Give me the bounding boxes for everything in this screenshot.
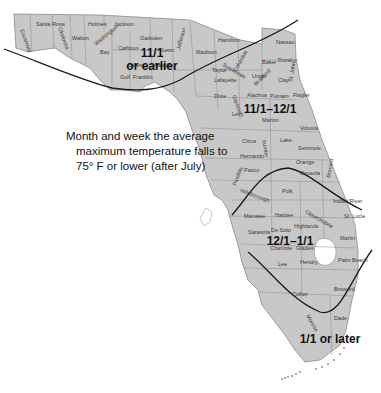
svg-text:Palm Beach: Palm Beach: [338, 257, 368, 263]
svg-text:Marion: Marion: [262, 117, 279, 123]
legend-line-2: maximum temperature falls to: [66, 144, 306, 159]
svg-text:Lafayette: Lafayette: [214, 77, 237, 83]
zone-1-label-line1: 11/1: [141, 46, 164, 60]
svg-text:Dade: Dade: [334, 315, 347, 321]
svg-text:Gulf: Gulf: [120, 74, 131, 80]
svg-text:Collier: Collier: [292, 291, 308, 297]
svg-text:De Soto: De Soto: [271, 227, 291, 233]
svg-text:Putnam: Putnam: [270, 93, 289, 99]
svg-text:Manatee: Manatee: [244, 213, 265, 219]
svg-text:Jackson: Jackson: [114, 21, 134, 27]
florida-map: Escambia Santa Rosa Okaloosa Walton Holm…: [0, 0, 381, 393]
svg-text:Flagler: Flagler: [293, 92, 310, 98]
zone-4-label: 1/1 or later: [300, 332, 361, 346]
svg-text:Dixie: Dixie: [214, 93, 226, 99]
florida-landmass: [14, 14, 358, 362]
svg-text:Alachua: Alachua: [247, 92, 268, 98]
svg-text:Madison: Madison: [196, 49, 217, 55]
svg-text:Gadsden: Gadsden: [140, 35, 162, 41]
svg-text:Levy: Levy: [232, 111, 244, 117]
legend-line-3: 75° F or lower (after July): [66, 159, 306, 174]
svg-text:Broward: Broward: [334, 286, 354, 292]
map-legend: Month and week the average maximum tempe…: [66, 129, 306, 174]
svg-text:Hardee: Hardee: [275, 212, 293, 218]
svg-text:Highlands: Highlands: [294, 223, 319, 229]
svg-text:Martin: Martin: [340, 235, 355, 241]
svg-text:Lee: Lee: [278, 261, 287, 267]
legend-line-1: Month and week the average: [66, 129, 306, 144]
svg-text:Indian River: Indian River: [333, 198, 363, 204]
svg-text:Walton: Walton: [72, 35, 89, 41]
zone-3-label: 12/1–1/1: [267, 234, 314, 248]
tampa-bay: [200, 208, 212, 226]
svg-text:St. Lucie: St. Lucie: [344, 213, 365, 219]
zone-1-label-line2: or earlier: [126, 59, 178, 73]
svg-text:Baker: Baker: [262, 59, 277, 65]
svg-text:Leon: Leon: [162, 47, 174, 53]
zone-2-label: 11/1–12/1: [244, 102, 297, 116]
svg-text:Nassau: Nassau: [276, 39, 295, 45]
svg-text:Hendry: Hendry: [300, 259, 318, 265]
svg-text:Franklin: Franklin: [133, 74, 153, 80]
svg-text:Bay: Bay: [100, 49, 110, 55]
svg-text:Calhoun: Calhoun: [118, 45, 139, 51]
svg-text:Hamilton: Hamilton: [218, 37, 240, 43]
svg-text:Polk: Polk: [282, 188, 293, 194]
svg-text:Holmes: Holmes: [88, 21, 107, 27]
